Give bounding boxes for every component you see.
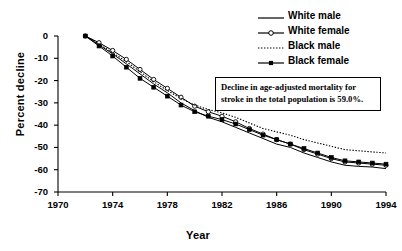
y-tick-label: -70 xyxy=(22,186,48,197)
annotation-line-1: Decline in age-adjusted mortality for xyxy=(221,82,356,92)
legend-label: Black female xyxy=(288,55,349,67)
legend-label: White male xyxy=(288,10,341,22)
legend-label: White female xyxy=(288,25,350,37)
y-tick-label: -40 xyxy=(22,119,48,130)
y-tick-label: 0 xyxy=(22,30,48,41)
chart-legend: White maleWhite femaleBlack maleBlack fe… xyxy=(258,8,390,68)
legend-item-white-female: White female xyxy=(258,23,390,38)
y-tick-label: -20 xyxy=(22,75,48,86)
x-tick-label: 1982 xyxy=(202,199,242,210)
legend-label: Black male xyxy=(288,40,340,52)
x-tick-label: 1970 xyxy=(38,199,78,210)
x-tick-label: 1986 xyxy=(257,199,297,210)
legend-item-white-male: White male xyxy=(258,8,390,23)
legend-key-icon xyxy=(258,40,284,52)
y-tick-label: -50 xyxy=(22,141,48,152)
legend-key-icon xyxy=(258,55,284,67)
x-tick-label: 1994 xyxy=(366,199,402,210)
legend-item-black-female: Black female xyxy=(258,53,390,68)
legend-key-icon xyxy=(258,10,284,22)
legend-item-black-male: Black male xyxy=(258,38,390,53)
y-tick-label: -10 xyxy=(22,52,48,63)
x-tick-label: 1990 xyxy=(311,199,351,210)
x-axis-title: Year xyxy=(148,229,248,241)
x-tick-label: 1978 xyxy=(147,199,187,210)
annotation-line-2: stroke in the total population is 59.0%. xyxy=(221,94,363,104)
legend-key-icon xyxy=(258,25,284,37)
y-tick-label: -30 xyxy=(22,97,48,108)
annotation-textbox: Decline in age-adjusted mortality for st… xyxy=(215,77,381,111)
y-tick-label: -60 xyxy=(22,164,48,175)
x-tick-label: 1974 xyxy=(93,199,133,210)
